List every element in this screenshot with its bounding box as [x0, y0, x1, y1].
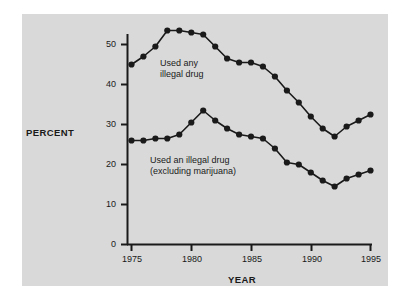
y-tick-label-50: 50 [94, 39, 116, 49]
chart-figure: PERCENT YEAR Used any illegal drug Used … [0, 0, 410, 300]
data-point [128, 61, 134, 67]
data-point [212, 117, 218, 123]
x-tick-label-1975: 1975 [112, 254, 152, 264]
data-point [272, 145, 278, 151]
series-line-0 [132, 31, 371, 137]
data-point [200, 107, 206, 113]
y-tick-label-40: 40 [94, 79, 116, 89]
x-tick-label-1985: 1985 [232, 254, 272, 264]
data-series-group [128, 27, 373, 189]
data-point [284, 159, 290, 165]
data-point [236, 131, 242, 137]
x-tick-label-1995: 1995 [351, 254, 391, 264]
y-tick-label-30: 30 [94, 119, 116, 129]
y-tick-label-10: 10 [94, 199, 116, 209]
data-point [367, 167, 373, 173]
data-point [188, 119, 194, 125]
data-point [248, 133, 254, 139]
data-point [188, 29, 194, 35]
y-tick-label-0: 0 [94, 239, 116, 249]
data-point [284, 87, 290, 93]
data-point [260, 63, 266, 69]
x-tick-label-1990: 1990 [292, 254, 332, 264]
data-point [344, 175, 350, 181]
data-point [260, 135, 266, 141]
data-point [236, 59, 242, 65]
data-point [356, 117, 362, 123]
data-point [212, 43, 218, 49]
series-line-1 [132, 111, 371, 187]
data-point [200, 31, 206, 37]
data-point [308, 169, 314, 175]
data-point [176, 27, 182, 33]
data-point [164, 27, 170, 33]
data-point [176, 131, 182, 137]
data-point [128, 137, 134, 143]
data-point [224, 55, 230, 61]
data-point [164, 135, 170, 141]
data-point [320, 177, 326, 183]
data-point [332, 183, 338, 189]
data-point [367, 111, 373, 117]
data-point [140, 137, 146, 143]
data-point [308, 113, 314, 119]
data-point [140, 53, 146, 59]
data-point [344, 123, 350, 129]
data-point [224, 125, 230, 131]
data-point [332, 133, 338, 139]
data-point [296, 99, 302, 105]
data-point [152, 135, 158, 141]
data-point [272, 73, 278, 79]
data-point [320, 125, 326, 131]
y-tick-label-20: 20 [94, 159, 116, 169]
data-point [248, 59, 254, 65]
data-point [296, 161, 302, 167]
data-point [356, 171, 362, 177]
data-point [152, 43, 158, 49]
x-tick-label-1980: 1980 [172, 254, 212, 264]
